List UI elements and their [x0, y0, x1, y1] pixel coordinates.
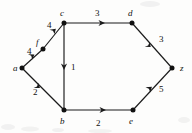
- edge-weight-c-b: 1: [71, 62, 76, 72]
- node-f: [41, 47, 46, 52]
- edge-weight-a-f: 4: [27, 46, 32, 56]
- node-label-z: z: [179, 63, 184, 73]
- node-b: [62, 108, 67, 113]
- edge-d-z: [132, 23, 172, 68]
- graph-canvas: a f c b d e z 4 4 2 1 3 2 3 5: [0, 0, 192, 133]
- edge-a-f: [22, 49, 43, 68]
- node-e: [131, 108, 136, 113]
- edge-weight-c-d: 3: [95, 8, 100, 18]
- edge-e-z: [133, 68, 172, 110]
- edge-weight-a-b: 2: [33, 87, 38, 97]
- node-label-d: d: [128, 8, 133, 18]
- edge-b-e: [64, 107, 133, 113]
- scan-artifacts: [1, 1, 190, 133]
- edge-weight-f-c: 4: [47, 20, 52, 30]
- node-label-e: e: [129, 116, 133, 126]
- edge-a-b: [22, 68, 64, 110]
- edge-c-d: [64, 20, 132, 26]
- node-label-f: f: [36, 37, 40, 47]
- edge-weight-d-z: 3: [159, 34, 164, 44]
- node-c: [62, 21, 67, 26]
- edge-weight-e-z: 5: [159, 84, 164, 94]
- edge-c-b: [61, 23, 67, 110]
- directed-graph-figure: a f c b d e z 4 4 2 1 3 2 3 5: [0, 0, 192, 133]
- node-label-a: a: [13, 63, 18, 73]
- node-a: [20, 66, 25, 71]
- edge-weight-b-e: 2: [96, 118, 101, 128]
- node-d: [130, 21, 135, 26]
- node-z: [170, 66, 175, 71]
- node-label-c: c: [60, 8, 64, 18]
- node-label-b: b: [60, 116, 65, 126]
